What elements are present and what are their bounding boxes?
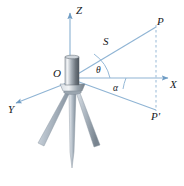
segment-label-slant-range: S (103, 36, 109, 47)
cylinder-top-cap (65, 55, 79, 59)
point-label-p-prime: P' (151, 111, 160, 122)
angle-label-theta: θ (96, 66, 101, 76)
axis-lines (16, 13, 168, 103)
diagram-svg (0, 0, 184, 186)
tripod-leg-center (69, 92, 76, 168)
alpha-arc (123, 78, 126, 89)
construction-lines (71, 25, 156, 111)
tripod-leg-right (76, 92, 100, 147)
axis-label-y: Y (8, 104, 14, 115)
point-label-origin: O (53, 68, 61, 79)
angle-label-alpha: α (113, 84, 118, 94)
surveying-instrument (38, 55, 100, 168)
axis-label-x: X (170, 79, 177, 90)
figure-container: Z X Y O P P' S θ α (0, 0, 184, 186)
slant-range-line (71, 27, 156, 78)
point-label-p: P (157, 16, 164, 27)
tripod-leg-left (38, 92, 70, 146)
cylinder-body (65, 57, 79, 85)
axis-label-z: Z (76, 5, 82, 16)
